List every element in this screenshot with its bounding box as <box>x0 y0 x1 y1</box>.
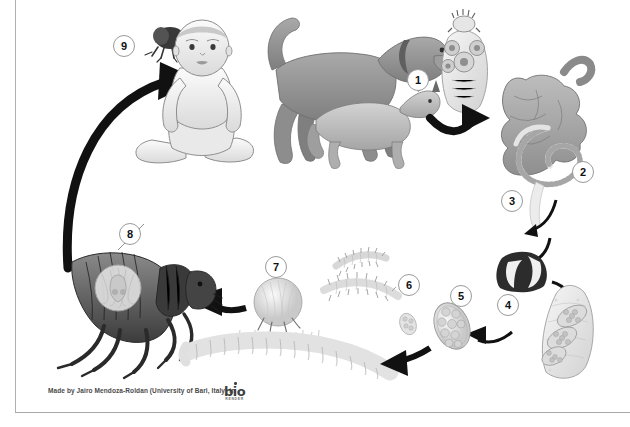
step-marker-7[interactable]: 7 <box>265 256 287 278</box>
biorender-logo: bio RENDER <box>224 383 245 401</box>
step-number-5: 5 <box>458 290 464 302</box>
step-marker-2[interactable]: 2 <box>572 161 594 183</box>
step-number-1: 1 <box>415 74 421 86</box>
adult-tapeworm-illustration <box>183 337 430 379</box>
biorender-logo-dot <box>234 382 237 385</box>
step-marker-3[interactable]: 3 <box>501 190 523 212</box>
gravid-proglottid-illustration <box>539 285 594 378</box>
step-marker-8[interactable]: 8 <box>119 223 141 245</box>
arrow-egg-to-larva <box>466 326 512 344</box>
step-marker-4[interactable]: 4 <box>497 294 519 316</box>
step-number-4: 4 <box>505 299 511 311</box>
step-number-7: 7 <box>273 261 279 273</box>
illustration-layer <box>0 0 630 427</box>
child-host-illustration <box>136 20 254 163</box>
tapeworm-scolex-illustration <box>442 9 488 113</box>
step-number-8: 8 <box>127 228 133 240</box>
biorender-logo-wordmark: bio <box>224 384 245 399</box>
credit-text: Made by Jairo Mendoza-Roldan (University… <box>48 387 235 394</box>
egg-packet-illustration <box>427 297 477 354</box>
feces-illustration <box>496 252 547 293</box>
step-marker-5[interactable]: 5 <box>450 285 472 307</box>
adult-flea-illustration <box>58 252 222 378</box>
life-cycle-diagram: 1 2 3 4 5 6 7 8 9 Made by Jairo Mendoza-… <box>0 0 630 427</box>
step-marker-6[interactable]: 6 <box>398 274 420 296</box>
step-marker-1[interactable]: 1 <box>407 69 429 91</box>
step-number-2: 2 <box>580 166 586 178</box>
step-number-9: 9 <box>121 40 127 52</box>
step-number-6: 6 <box>406 279 412 291</box>
step-marker-9[interactable]: 9 <box>113 35 135 57</box>
step-number-3: 3 <box>509 195 515 207</box>
